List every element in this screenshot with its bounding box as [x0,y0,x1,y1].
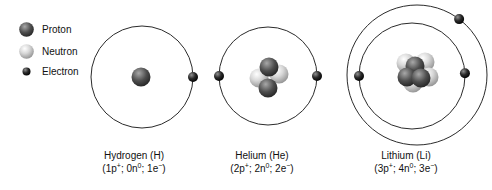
legend-label-electron: Electron [42,64,79,79]
hydrogen-shell-1-electron-1 [188,72,198,82]
legend-label-neutron: Neutron [42,44,78,59]
helium-proton-1 [260,58,279,77]
neutron-icon [19,44,34,59]
helium-diagram [214,27,322,125]
helium-formula: (2p+; 2n0; 2e−) [230,162,293,175]
lithium-diagram [347,5,487,145]
hydrogen-label: Hydrogen (H) (1p+; 0n0; 1e−) [102,149,165,175]
helium-label: Helium (He) (2p+; 2n0; 2e−) [230,149,293,175]
legend-item-proton: Proton [19,22,71,37]
proton-icon [19,22,34,37]
legend-item-neutron: Neutron [19,44,78,59]
legend-label-proton: Proton [42,22,71,37]
electron-icon [19,64,34,79]
legend-item-electron: Electron [19,64,79,79]
hydrogen-title: Hydrogen (H) [102,149,165,162]
lithium-proton-3 [412,69,431,88]
lithium-shell-1-electron-2 [460,68,470,78]
helium-shell-1-electron-2 [312,71,322,81]
hydrogen-proton-1 [132,68,151,87]
helium-proton-2 [259,79,278,98]
lithium-label: Lithium (Li) (3p+; 4n0; 3e−) [374,149,437,175]
lithium-shell-1-electron-1 [354,71,364,81]
lithium-title: Lithium (Li) [374,149,437,162]
helium-title: Helium (He) [230,149,293,162]
hydrogen-formula: (1p+; 0n0; 1e−) [102,162,165,175]
lithium-formula: (3p+; 4n0; 3e−) [374,162,437,175]
atomic-structure-diagram: Proton Neutron Electron Hydrogen (H) (1p… [0,0,492,190]
hydrogen-diagram [91,26,198,128]
lithium-shell-2-electron-1 [454,14,464,24]
helium-shell-1-electron-1 [214,71,224,81]
